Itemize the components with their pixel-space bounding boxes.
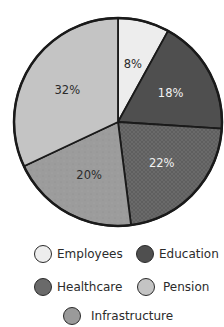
legend-item-healthcare: Healthcare bbox=[34, 278, 122, 296]
legend-swatch-icon bbox=[137, 278, 155, 296]
legend-swatch-icon bbox=[136, 245, 154, 263]
legend-swatch-icon bbox=[34, 245, 52, 263]
legend-item-infrastructure: Infrastructure bbox=[63, 307, 173, 325]
legend-label: Infrastructure bbox=[91, 309, 173, 323]
legend-label: Education bbox=[159, 247, 219, 261]
legend: Employees Education Healthcare Pension I… bbox=[0, 0, 224, 327]
legend-swatch-icon bbox=[34, 278, 52, 296]
legend-label: Employees bbox=[57, 247, 123, 261]
legend-label: Pension bbox=[163, 280, 209, 294]
legend-label: Healthcare bbox=[57, 280, 122, 294]
legend-item-pension: Pension bbox=[137, 278, 209, 296]
legend-item-education: Education bbox=[136, 245, 219, 263]
legend-item-employees: Employees bbox=[34, 245, 123, 263]
legend-swatch-icon bbox=[63, 307, 81, 325]
